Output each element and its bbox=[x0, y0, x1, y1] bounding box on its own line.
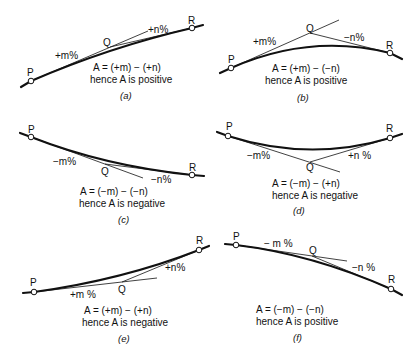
label-r: R bbox=[188, 15, 195, 26]
label-p: P bbox=[30, 277, 37, 288]
panel-f: P Q R − m % −n % A = (−m) − (−n) hence A… bbox=[225, 231, 402, 343]
grade-out-label: −n % bbox=[352, 262, 375, 273]
grade-out-label: +n% bbox=[165, 262, 185, 273]
grade-in-label: −m% bbox=[53, 156, 76, 167]
label-r: R bbox=[388, 274, 395, 285]
point-p bbox=[31, 289, 37, 295]
point-r bbox=[388, 286, 394, 292]
label-r: R bbox=[386, 123, 393, 134]
point-p bbox=[225, 133, 231, 139]
conclusion: hence A is positive bbox=[90, 74, 173, 85]
label-q: Q bbox=[306, 23, 314, 34]
point-r bbox=[196, 247, 202, 253]
label-p: P bbox=[233, 231, 240, 242]
caption: (e) bbox=[118, 333, 130, 344]
conclusion: hence A is positive bbox=[256, 316, 339, 327]
caption: (f) bbox=[293, 332, 302, 343]
point-r bbox=[189, 25, 195, 31]
equation: A = (+m) − (−n) bbox=[272, 63, 340, 74]
label-p: P bbox=[28, 124, 35, 135]
conclusion: hence A is negative bbox=[272, 190, 359, 201]
grade-out-label: +n % bbox=[348, 150, 371, 161]
label-q: Q bbox=[309, 245, 317, 256]
label-q: Q bbox=[101, 166, 109, 177]
point-p bbox=[228, 65, 234, 71]
caption: (b) bbox=[297, 92, 309, 103]
grade-out-label: +n% bbox=[148, 24, 168, 35]
label-q: Q bbox=[118, 284, 126, 295]
point-p bbox=[28, 78, 34, 84]
equation: A = (−m) − (−n) bbox=[256, 304, 324, 315]
grade-out-label: −n% bbox=[344, 32, 364, 43]
label-q: Q bbox=[306, 162, 314, 173]
equation: A = (−m) − (+n) bbox=[272, 178, 340, 189]
point-r bbox=[387, 50, 393, 56]
label-r: R bbox=[386, 40, 393, 51]
grade-in-label: +m% bbox=[55, 50, 78, 61]
point-p bbox=[233, 242, 239, 248]
vertical-curve-diagram: P Q R +m% +n% A = (+m) − (+n) hence A is… bbox=[0, 0, 418, 358]
label-r: R bbox=[189, 162, 196, 173]
caption: (c) bbox=[118, 214, 129, 225]
panel-a: P Q R +m% +n% A = (+m) − (+n) hence A is… bbox=[21, 15, 203, 101]
vertical-curve bbox=[20, 133, 204, 176]
point-p bbox=[28, 134, 34, 140]
panel-c: P Q R −m% −n% A = (−m) − (−n) hence A is… bbox=[20, 124, 204, 225]
label-p: P bbox=[226, 121, 233, 132]
equation: A = (−m) − (−n) bbox=[80, 186, 148, 197]
panel-b: P Q R +m% −n% A = (+m) − (−n) hence A is… bbox=[220, 20, 402, 103]
label-r: R bbox=[196, 235, 203, 246]
equation: A = (+m) − (+n) bbox=[84, 305, 152, 316]
grade-out-label: −n% bbox=[151, 174, 171, 185]
panel-e: P Q R +m % +n% A = (+m) − (+n) hence A i… bbox=[23, 235, 209, 344]
label-p: P bbox=[27, 67, 34, 78]
point-r bbox=[387, 135, 393, 141]
conclusion: hence A is negative bbox=[82, 317, 169, 328]
equation: A = (+m) − (+n) bbox=[93, 62, 161, 73]
grade-in-label: −m% bbox=[247, 150, 270, 161]
grade-in-label: +m% bbox=[253, 36, 276, 47]
caption: (d) bbox=[293, 205, 305, 216]
conclusion: hence A is negative bbox=[79, 198, 166, 209]
point-r bbox=[189, 172, 195, 178]
grade-in-label: +m % bbox=[70, 289, 96, 300]
label-q: Q bbox=[103, 37, 111, 48]
vertical-curve bbox=[217, 132, 402, 150]
label-p: P bbox=[228, 54, 235, 65]
grade-in-label: − m % bbox=[264, 238, 293, 249]
caption: (a) bbox=[120, 90, 132, 101]
panel-d: P Q R −m% +n % A = (−m) − (+n) hence A i… bbox=[217, 121, 402, 216]
conclusion: hence A is positive bbox=[265, 75, 348, 86]
